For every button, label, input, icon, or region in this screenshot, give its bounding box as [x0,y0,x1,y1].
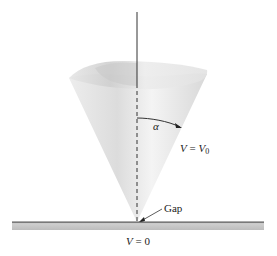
gap-label: Gap [164,203,182,214]
plane-potential-value: 0 [144,235,150,247]
plane-potential-label: V = 0 [126,236,150,247]
ground-plate [12,222,264,230]
cone-potential-var: V [180,142,187,154]
cone-potential-eq: = [187,142,199,154]
plane-potential-eq: = [133,235,145,247]
cone-potential-sub: 0 [205,147,209,156]
plane-potential-var: V [126,235,133,247]
cone-potential-label: V = V0 [180,143,209,156]
angle-label: α [153,121,159,132]
cone-diagram [0,0,277,256]
